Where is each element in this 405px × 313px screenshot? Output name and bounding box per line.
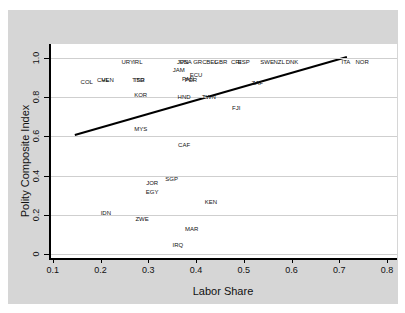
x-tick-mark xyxy=(196,258,197,263)
y-tick-label: 0.6 xyxy=(31,130,41,143)
x-tick-label: 0.6 xyxy=(285,265,298,275)
y-tick-label: 0.8 xyxy=(31,91,41,104)
x-tick-label: 0.5 xyxy=(238,265,251,275)
data-point-per: PER xyxy=(185,77,197,83)
data-point-ken: KEN xyxy=(205,199,217,205)
y-axis-line xyxy=(49,44,51,259)
data-point-zwe: ZWE xyxy=(135,216,148,222)
data-point-nzl: NZL xyxy=(273,59,284,65)
y-tick-label: 0.2 xyxy=(31,209,41,222)
data-point-irl: IRL xyxy=(133,59,142,65)
y-tick-label: 0.4 xyxy=(31,169,41,182)
y-tick-label: 1.0 xyxy=(31,52,41,65)
data-point-esp: ESP xyxy=(238,59,250,65)
y-tick-mark xyxy=(44,97,49,98)
fit-line-svg xyxy=(50,44,397,258)
y-tick-mark xyxy=(44,136,49,137)
data-point-sgp: SGP xyxy=(165,176,178,182)
x-tick-mark xyxy=(101,258,102,263)
data-point-isr: ISR xyxy=(135,77,145,83)
data-point-col: COL xyxy=(81,79,93,85)
x-axis-title: Labor Share xyxy=(193,285,254,297)
y-tick-mark xyxy=(44,254,49,255)
x-tick-label: 0.3 xyxy=(142,265,155,275)
data-point-twn: TWN xyxy=(202,94,216,100)
x-tick-mark xyxy=(53,258,54,263)
data-point-jam: JAM xyxy=(173,67,185,73)
y-tick-mark xyxy=(44,176,49,177)
x-tick-label: 0.2 xyxy=(94,265,107,275)
y-tick-mark xyxy=(44,58,49,59)
x-tick-label: 0.7 xyxy=(333,265,346,275)
x-tick-mark xyxy=(339,258,340,263)
data-point-kor: KOR xyxy=(134,92,147,98)
data-point-swe: SWE xyxy=(260,59,274,65)
y-tick-label: 0 xyxy=(31,252,41,257)
x-tick-label: 0.1 xyxy=(47,265,60,275)
x-tick-label: 0.4 xyxy=(190,265,203,275)
x-tick-mark xyxy=(387,258,388,263)
data-point-ita: ITA xyxy=(341,59,350,65)
data-point-irq: IRQ xyxy=(173,242,184,248)
data-point-caf: CAF xyxy=(178,142,190,148)
y-tick-mark xyxy=(44,215,49,216)
data-point-nor: NOR xyxy=(355,59,368,65)
data-point-zaf: ZAF xyxy=(251,80,262,86)
data-point-gbr: GBR xyxy=(214,59,227,65)
figure-background: URYIRLJPNUSAGRCBELGBRCRIESPSWENZLDNKITAN… xyxy=(8,10,398,304)
x-tick-mark xyxy=(148,258,149,263)
data-point-hnd: HND xyxy=(178,94,191,100)
data-point-grc: GRC xyxy=(193,59,206,65)
data-point-mys: MYS xyxy=(134,126,147,132)
y-axis-title: Polity Composite Index xyxy=(19,105,31,218)
data-point-fji: FJI xyxy=(232,105,240,111)
data-point-jor: JOR xyxy=(146,180,158,186)
data-point-egy: EGY xyxy=(146,189,159,195)
data-point-dnk: DNK xyxy=(286,59,299,65)
plot-area: URYIRLJPNUSAGRCBELGBRCRIESPSWENZLDNKITAN… xyxy=(50,44,397,258)
data-point-mar: MAR xyxy=(185,226,198,232)
y-gridline xyxy=(50,136,397,137)
data-point-idn: IDN xyxy=(101,210,111,216)
x-tick-mark xyxy=(292,258,293,263)
y-gridline xyxy=(50,254,397,255)
data-point-ven: VEN xyxy=(102,77,114,83)
y-gridline xyxy=(50,97,397,98)
y-gridline xyxy=(50,176,397,177)
data-point-usa: USA xyxy=(179,59,191,65)
x-tick-label: 0.8 xyxy=(381,265,394,275)
x-tick-mark xyxy=(244,258,245,263)
